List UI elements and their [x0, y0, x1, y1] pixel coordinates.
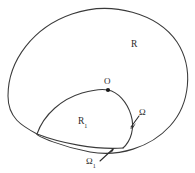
origin-point-label: O — [104, 77, 111, 86]
outer-boundary-curve — [8, 9, 188, 154]
outer-boundary-label-base: Ω — [86, 156, 93, 166]
region-diagram-figure: R R1 O Ω Ω1 — [0, 0, 195, 173]
inner-boundary-upper-arc — [37, 89, 108, 134]
inner-boundary-label: Ω — [139, 108, 146, 117]
omega1-leader-line — [100, 149, 113, 161]
inner-region-label-subscript: 1 — [84, 123, 87, 129]
outer-region-label: R — [131, 40, 137, 50]
inner-boundary-lower-arc — [108, 90, 133, 148]
diagram-canvas — [0, 0, 195, 173]
outer-boundary-label-subscript: 1 — [93, 163, 96, 169]
outer-boundary-label: Ω1 — [86, 157, 96, 168]
origin-point-marker-icon — [106, 88, 110, 92]
inner-region-label: R1 — [78, 117, 87, 128]
